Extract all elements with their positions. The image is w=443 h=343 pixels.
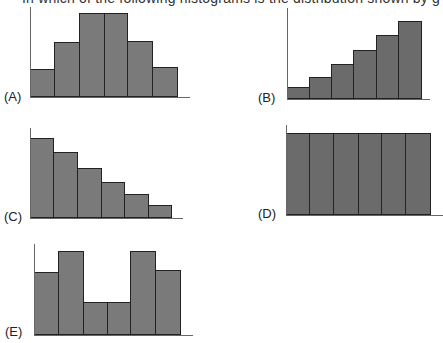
x-axis bbox=[30, 218, 183, 219]
histogram-bar bbox=[34, 272, 59, 335]
histogram-bar bbox=[286, 133, 310, 215]
histogram-bar bbox=[54, 42, 80, 97]
y-axis bbox=[286, 125, 287, 215]
x-axis bbox=[34, 335, 193, 336]
histogram-bar bbox=[53, 152, 78, 218]
option-label: (D) bbox=[258, 206, 276, 221]
histogram-bar bbox=[79, 13, 105, 97]
histogram-bar bbox=[104, 13, 128, 97]
option-label: (A) bbox=[4, 89, 21, 104]
histogram-bar bbox=[83, 302, 108, 335]
histogram-bar bbox=[152, 67, 178, 97]
histogram-bar bbox=[155, 270, 181, 335]
histogram-bar bbox=[107, 302, 131, 335]
histogram-bar bbox=[77, 168, 102, 218]
option-label: (E) bbox=[5, 324, 22, 339]
histogram-bar bbox=[287, 87, 310, 99]
histogram-bar bbox=[309, 133, 334, 215]
histogram-bar bbox=[58, 251, 84, 335]
histogram-bar bbox=[101, 182, 125, 218]
histogram-bar bbox=[148, 205, 172, 218]
histogram-bar bbox=[30, 138, 54, 218]
histogram-bar bbox=[398, 21, 422, 99]
question-text: In which of the following histograms is … bbox=[22, 0, 440, 6]
histogram-bar bbox=[405, 133, 431, 215]
histogram-bar bbox=[376, 35, 399, 99]
histogram-bar bbox=[353, 50, 377, 99]
histogram-bar bbox=[124, 194, 149, 218]
y-axis bbox=[30, 128, 31, 218]
option-label: (C) bbox=[4, 209, 22, 224]
histogram-bar bbox=[331, 64, 354, 99]
y-axis bbox=[287, 8, 288, 99]
histogram-bar bbox=[358, 133, 382, 215]
y-axis bbox=[30, 7, 31, 97]
option-label: (B) bbox=[258, 90, 275, 105]
histogram-bar bbox=[381, 133, 406, 215]
histogram-bar bbox=[30, 69, 55, 97]
histogram-bar bbox=[127, 41, 153, 97]
histogram-bar bbox=[333, 133, 359, 215]
x-axis bbox=[287, 99, 430, 100]
y-axis bbox=[34, 244, 35, 335]
histogram-bar bbox=[130, 251, 156, 335]
x-axis bbox=[286, 215, 443, 216]
x-axis bbox=[30, 97, 190, 98]
histogram-bar bbox=[309, 77, 332, 99]
